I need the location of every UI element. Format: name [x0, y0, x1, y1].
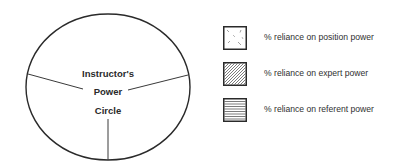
circle-title-line-2: Power [94, 86, 123, 97]
horizontal-lines-pattern-icon [223, 98, 247, 122]
legend-item-position-power: % reliance on position power [223, 26, 413, 62]
legend-label: % reliance on position power [264, 32, 374, 42]
diagonal-hatch-pattern-icon [223, 62, 247, 86]
legend-item-expert-power: % reliance on expert power [223, 62, 413, 98]
circle-title-line-1: Instructor's [82, 68, 134, 79]
legend: % reliance on position power [223, 26, 413, 134]
right-divider [128, 75, 188, 90]
legend-item-referent-power: % reliance on referent power [223, 98, 413, 134]
legend-label: % reliance on expert power [264, 68, 368, 78]
scattered-dash-pattern-icon [223, 26, 247, 50]
left-divider [28, 74, 83, 89]
legend-label: % reliance on referent power [264, 104, 374, 114]
circle-title-line-3: Circle [95, 105, 121, 116]
